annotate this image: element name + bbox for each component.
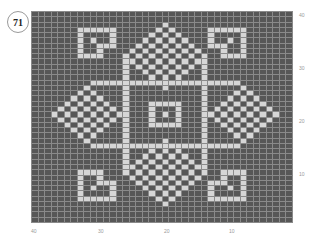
column-label-30: 30 [98,228,104,234]
pattern-number-badge: 71 [7,11,29,33]
background-stitch-cell [286,218,293,223]
row-label-20: 20 [299,118,305,124]
column-label-20: 20 [164,228,170,234]
pattern-number: 71 [13,17,23,28]
column-label-40: 40 [31,228,37,234]
row-label-30: 30 [299,65,305,71]
row-label-10: 10 [299,171,305,177]
chart-grid [32,12,293,223]
stitch-chart [31,11,293,223]
column-label-10: 10 [229,228,235,234]
row-label-40: 40 [299,12,305,18]
